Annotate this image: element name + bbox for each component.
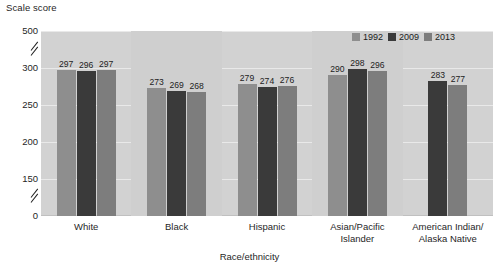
bar-1992 <box>328 75 347 216</box>
bar-value-label: 277 <box>446 75 469 84</box>
bar-1992 <box>57 70 76 216</box>
bar-2009 <box>258 87 277 216</box>
bar-value-label: 297 <box>95 60 118 69</box>
x-category-label: American Indian/Alaska Native <box>395 221 499 244</box>
legend-label: 1992 <box>363 32 383 42</box>
bar-2013 <box>278 86 297 216</box>
y-tick-label: 500 <box>4 26 38 36</box>
bar-chart: Scale score 5003002502001500 29729629727… <box>0 0 499 272</box>
y-tick-label: 250 <box>4 100 38 110</box>
legend-label: 2013 <box>435 32 455 42</box>
legend-label: 2009 <box>399 32 419 42</box>
legend-swatch-icon <box>352 33 360 41</box>
legend-item-1992: 1992 <box>352 32 383 42</box>
legend-swatch-icon <box>424 33 432 41</box>
bar-2013 <box>97 70 116 216</box>
bar-2013 <box>448 85 467 216</box>
bar-value-label: 268 <box>185 82 208 91</box>
bar-2009 <box>77 71 96 216</box>
plot-area: 2972962972732692682792742762902982962832… <box>41 31 493 216</box>
bar-2013 <box>187 92 206 216</box>
bar-2009 <box>428 81 447 216</box>
y-tick-label: 0 <box>4 211 38 221</box>
legend-item-2009: 2009 <box>388 32 419 42</box>
y-tick-label: 150 <box>4 174 38 184</box>
x-category-line: American Indian/ <box>395 221 499 233</box>
bar-1992 <box>238 84 257 216</box>
bar-value-label: 296 <box>366 61 389 70</box>
bar-value-label: 276 <box>276 76 299 85</box>
legend: 199220092013 <box>352 32 455 42</box>
bar-1992 <box>147 88 166 216</box>
y-tick-label: 300 <box>4 63 38 73</box>
bar-2009 <box>348 69 367 216</box>
y-tick-label: 200 <box>4 137 38 147</box>
legend-swatch-icon <box>388 33 396 41</box>
x-axis-title: Race/ethnicity <box>0 251 499 262</box>
x-category-line: Alaska Native <box>395 233 499 245</box>
legend-item-2013: 2013 <box>424 32 455 42</box>
bar-2009 <box>167 91 186 216</box>
bar-2013 <box>368 71 387 216</box>
